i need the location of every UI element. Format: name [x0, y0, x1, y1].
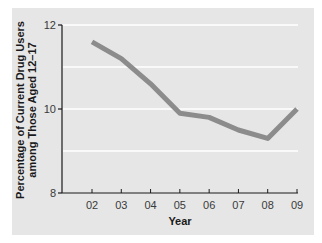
x-axis-title: Year: [168, 215, 192, 227]
x-tick-label: 02: [86, 199, 98, 211]
x-tick-label: 03: [115, 199, 127, 211]
x-tick-label: 05: [174, 199, 186, 211]
x-tick-label: 09: [291, 199, 303, 211]
x-ticks: 0203040506070809: [86, 189, 303, 211]
y-tick-label: 10: [44, 103, 56, 115]
x-tick-label: 04: [144, 199, 156, 211]
x-tick-label: 06: [203, 199, 215, 211]
data-line: [92, 42, 297, 139]
y-ticks: 81012: [44, 19, 62, 199]
y-axis-title-line-1: Percentage of Current Drug Users: [14, 21, 26, 199]
y-axis-title-line-2: among Those Aged 12–17: [26, 42, 38, 177]
y-tick-label: 12: [44, 19, 56, 31]
x-tick-label: 07: [232, 199, 244, 211]
line-chart: 81012 0203040506070809 Year Percentage o…: [0, 0, 322, 243]
x-tick-label: 08: [262, 199, 274, 211]
y-tick-label: 8: [50, 187, 56, 199]
y-axis-title: Percentage of Current Drug Users among T…: [14, 21, 38, 199]
